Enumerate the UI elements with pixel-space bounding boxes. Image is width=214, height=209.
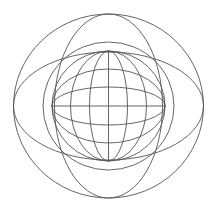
- globe-diagram: [0, 0, 214, 209]
- globe-shapes: [14, 14, 204, 198]
